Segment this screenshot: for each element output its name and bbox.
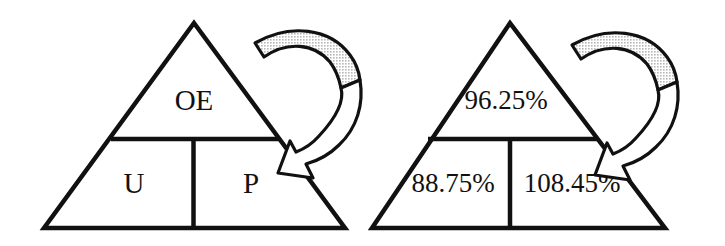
right-pyramid-top-label: 96.25% — [464, 85, 547, 115]
left-pyramid-bottom-left-label: U — [124, 167, 145, 199]
curved-arrow-left-head — [278, 80, 361, 178]
right-pyramid-group: 96.25% 88.75% 108.45% — [372, 23, 665, 228]
curved-arrow-right-head — [595, 82, 678, 180]
diagram-canvas: OE U P 96.25% 88.75% 108.45% — [0, 0, 725, 246]
right-pyramid-bottom-left-label: 88.75% — [411, 168, 494, 198]
curved-arrow-right-shaded-band — [572, 33, 677, 90]
left-pyramid-top-label: OE — [175, 84, 214, 116]
diagram-svg: OE U P 96.25% 88.75% 108.45% — [0, 0, 725, 246]
left-pyramid-group: OE U P — [44, 23, 345, 228]
curved-arrow-left-shaded-band — [255, 31, 360, 88]
left-pyramid-bottom-right-label: P — [243, 167, 259, 199]
